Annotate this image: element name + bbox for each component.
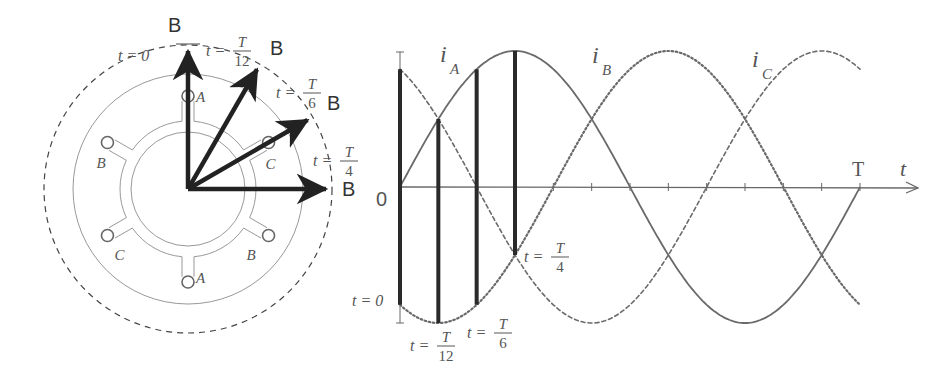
series-label-iA: i — [440, 41, 447, 67]
vector-time-label-0-text: t = 0 — [118, 47, 149, 64]
origin-label: 0 — [376, 188, 387, 210]
instant-label-2-denominator: 6 — [499, 335, 507, 351]
vector-symbol-b: B — [168, 14, 181, 36]
vector-symbol-b: B — [342, 178, 355, 200]
vector-time-label-3: t =T4 — [313, 144, 358, 179]
slot-b-conductor — [263, 230, 275, 242]
vector-time-label-1: t =T12 — [206, 34, 251, 69]
vector-time-label-1-prefix: t = — [206, 42, 225, 59]
instant-label-2-prefix: t = — [467, 324, 486, 341]
vector-time-label-2-denominator: 6 — [308, 95, 316, 111]
slot-label-b: B — [247, 247, 256, 263]
vector-time-label-1-denominator: 12 — [235, 53, 250, 69]
instant-label-1-denominator: 12 — [439, 348, 454, 364]
series-label-iB-sub: B — [602, 62, 611, 78]
vector-time-label-3-prefix: t = — [313, 152, 332, 169]
instant-label-3-denominator: 4 — [556, 259, 564, 275]
instant-label-2-numerator: T — [499, 316, 509, 332]
slot-c-conductor — [101, 230, 113, 242]
instant-label-1-numerator: T — [442, 329, 452, 345]
vector-time-label-3-numerator: T — [345, 144, 355, 160]
vector-symbol-b: B — [327, 92, 340, 114]
series-label-iB: i — [592, 42, 599, 68]
current-waveform-chart: t = 0t =T12t =T6t =T4 i A i B i C 0 T t — [352, 41, 918, 364]
instant-label-3: t =T4 — [524, 240, 569, 275]
instant-label-0-text: t = 0 — [352, 292, 383, 309]
instant-label-0: t = 0 — [352, 292, 383, 309]
chart-labels: i A i B i C 0 T t — [376, 41, 907, 210]
series-label-iC: i — [752, 46, 759, 72]
vector-time-label-0: t = 0 — [118, 47, 149, 64]
series-label-iC-sub: C — [762, 66, 773, 82]
vector-time-label-3-denominator: 4 — [345, 163, 353, 179]
slot-label-a: A — [195, 270, 206, 286]
period-label: T — [852, 158, 864, 180]
instant-label-3-numerator: T — [556, 240, 566, 256]
vector-symbol-b: B — [270, 37, 283, 59]
series-label-iA-sub: A — [449, 61, 460, 77]
vector-time-label-2-prefix: t = — [276, 84, 295, 101]
vector-time-label-1-numerator: T — [238, 34, 248, 50]
instant-label-2: t =T6 — [467, 316, 512, 351]
rotating-field-diagram: ACBCBA Bt = 0Bt =T12Bt =T6Bt =T4 — [44, 14, 358, 333]
slot-b-conductor — [101, 137, 113, 149]
slot-label-c: C — [266, 156, 277, 172]
slot-label-b: B — [96, 155, 105, 171]
slot-label-c: C — [114, 247, 125, 263]
figure-canvas: ACBCBA Bt = 0Bt =T12Bt =T6Bt =T4 t = 0t … — [0, 0, 950, 380]
vector-time-label-2-numerator: T — [308, 76, 318, 92]
time-axis-label: t — [900, 156, 907, 181]
slot-a-conductor — [182, 276, 194, 288]
field-vectors: Bt = 0Bt =T12Bt =T6Bt =T4 — [118, 14, 358, 200]
instant-label-3-prefix: t = — [524, 248, 543, 265]
slot-label-a: A — [195, 89, 206, 105]
instant-label-1: t =T12 — [410, 329, 455, 364]
instant-label-1-prefix: t = — [410, 337, 429, 354]
